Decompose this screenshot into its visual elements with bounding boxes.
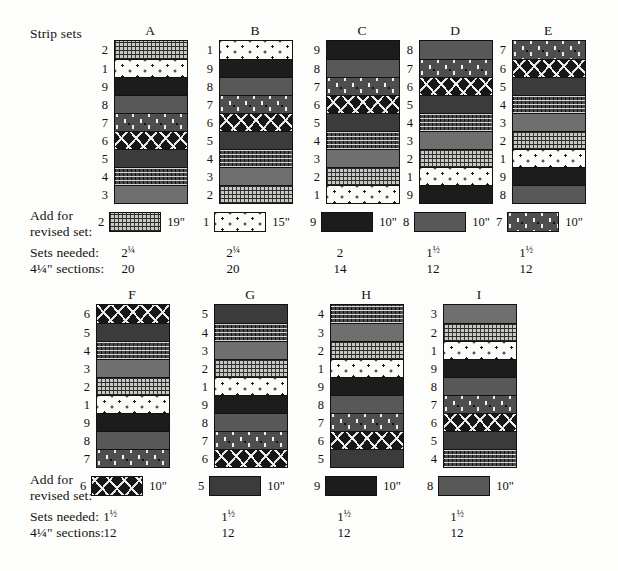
strip-sets-diagram: Strip sets A219876543219"2¼20B1987654321… [0, 0, 618, 571]
strip-number-label: 3 [84, 362, 90, 375]
fabric-strip-9: 9 [327, 41, 399, 59]
fabric-strip-9: 9 [444, 359, 516, 377]
strip-stack-i: 321987654 [443, 304, 517, 468]
strip-number-label: 8 [500, 188, 506, 201]
fabric-strip-9: 9 [215, 395, 287, 413]
strip-number-label: 4 [407, 116, 413, 129]
fabric-strip-3: 3 [220, 167, 292, 185]
sections-value-h: 12 [308, 525, 380, 541]
sets-needed-value-i: 1½ [421, 509, 493, 525]
strip-number-label: 3 [318, 326, 324, 339]
fabric-strip-1: 1 [513, 149, 585, 167]
strip-number-label: 6 [314, 98, 320, 111]
fabric-strip-2: 2 [420, 149, 492, 167]
strip-number-label: 4 [207, 152, 213, 165]
sets-needed-value-g: 1½ [192, 509, 264, 525]
fabric-strip-8: 8 [97, 431, 169, 449]
strip-number-label: 9 [407, 188, 413, 201]
strip-number-label: 9 [207, 62, 213, 75]
fabric-strip-6: 6 [420, 77, 492, 95]
fabric-strip-7: 7 [215, 431, 287, 449]
fabric-strip-4: 4 [115, 167, 187, 185]
strip-number-label: 7 [500, 44, 506, 57]
strip-number-label: 6 [202, 452, 208, 465]
fabric-strip-8: 8 [513, 185, 585, 203]
fabric-strip-3: 3 [97, 359, 169, 377]
strip-number-label: 2 [500, 134, 506, 147]
fabric-strip-6: 6 [215, 449, 287, 467]
strip-number-label: 6 [500, 62, 506, 75]
add-strip-fabric-1 [214, 212, 266, 232]
strip-number-label: 2 [318, 344, 324, 357]
fabric-strip-9: 9 [513, 167, 585, 185]
strip-number-label: 2 [314, 170, 320, 183]
fabric-strip-5: 5 [331, 449, 403, 467]
add-strip-length: 10" [383, 479, 401, 494]
strip-number-label: 7 [202, 434, 208, 447]
strip-stack-a: 219876543 [114, 40, 188, 204]
strip-stack-h: 432198765 [330, 304, 404, 468]
fabric-strip-3: 3 [327, 149, 399, 167]
add-strip-fabric-5 [209, 476, 261, 496]
strip-number-label: 1 [314, 188, 320, 201]
fabric-strip-5: 5 [115, 149, 187, 167]
strip-set-title-f: F [96, 288, 168, 302]
fabric-strip-7: 7 [115, 113, 187, 131]
add-strip-fabric-2 [109, 212, 161, 232]
strip-number-label: 7 [314, 80, 320, 93]
strip-number-label: 6 [102, 134, 108, 147]
sets-needed-label-2: Sets needed: [30, 509, 99, 525]
add-strip-swatch-d: 810" [403, 212, 490, 232]
fabric-strip-5: 5 [420, 95, 492, 113]
fabric-strip-5: 5 [97, 323, 169, 341]
fabric-strip-9: 9 [331, 377, 403, 395]
add-strip-fabric-6 [91, 476, 143, 496]
strip-number-label: 1 [202, 380, 208, 393]
add-strip-number: 5 [198, 479, 204, 494]
add-strip-swatch-h: 910" [314, 476, 401, 496]
strip-stack-f: 654321987 [96, 304, 170, 468]
strip-number-label: 8 [314, 62, 320, 75]
strip-number-label: 8 [84, 434, 90, 447]
fabric-strip-6: 6 [327, 95, 399, 113]
strip-number-label: 7 [318, 416, 324, 429]
strip-number-label: 5 [84, 326, 90, 339]
strip-number-label: 5 [500, 80, 506, 93]
fabric-strip-8: 8 [331, 395, 403, 413]
add-strip-swatch-a: 219" [98, 212, 185, 232]
fabric-strip-9: 9 [420, 185, 492, 203]
fabric-strip-8: 8 [220, 77, 292, 95]
fabric-strip-4: 4 [444, 449, 516, 467]
fabric-strip-2: 2 [97, 377, 169, 395]
strip-number-label: 4 [84, 344, 90, 357]
fabric-strip-6: 6 [220, 113, 292, 131]
add-strip-number: 7 [496, 215, 502, 230]
strip-number-label: 6 [207, 116, 213, 129]
strip-number-label: 9 [102, 80, 108, 93]
fabric-strip-5: 5 [327, 113, 399, 131]
strip-number-label: 8 [318, 398, 324, 411]
strip-number-label: 3 [314, 152, 320, 165]
strip-number-label: 1 [500, 152, 506, 165]
fabric-strip-2: 2 [327, 167, 399, 185]
sections-value-b: 20 [197, 261, 269, 277]
fabric-strip-1: 1 [97, 395, 169, 413]
add-strip-fabric-8 [414, 212, 466, 232]
strip-number-label: 2 [407, 152, 413, 165]
sections-value-d: 12 [397, 261, 469, 277]
strip-number-label: 8 [207, 80, 213, 93]
fabric-strip-7: 7 [513, 41, 585, 59]
strip-number-label: 8 [202, 416, 208, 429]
sections-value-e: 12 [490, 261, 562, 277]
fabric-strip-5: 5 [444, 431, 516, 449]
fabric-strip-9: 9 [115, 77, 187, 95]
fabric-strip-1: 1 [215, 377, 287, 395]
strip-number-label: 8 [407, 44, 413, 57]
add-strip-length: 10" [472, 215, 490, 230]
add-strip-number: 2 [98, 215, 104, 230]
fabric-strip-5: 5 [215, 305, 287, 323]
fabric-strip-3: 3 [215, 341, 287, 359]
strip-number-label: 2 [102, 44, 108, 57]
fabric-strip-8: 8 [444, 377, 516, 395]
strip-number-label: 9 [431, 362, 437, 375]
